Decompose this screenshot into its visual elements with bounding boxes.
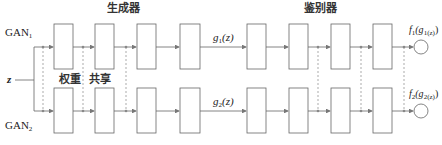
input-z-label: z [7, 74, 11, 85]
gan1-discriminator-layers [247, 24, 392, 69]
f1-output-label: f1(g1(z)) [409, 25, 438, 37]
discriminator-title: 鉴别器 [304, 3, 337, 14]
g2-output-label: g2(z) [213, 96, 234, 109]
generator-title: 生成器 [107, 3, 140, 14]
gan2-label: GAN2 [5, 120, 32, 133]
weight-label: 权重 [59, 74, 81, 85]
g1-output-label: g1(z) [213, 32, 234, 45]
gan2-discriminator-layers [247, 88, 392, 133]
shared-label: 共享 [89, 74, 111, 85]
output-node-1 [414, 40, 428, 54]
output-node-2 [414, 104, 428, 118]
gan1-label: GAN1 [5, 27, 32, 40]
f2-output-label: f2(g2(z)) [409, 89, 438, 101]
